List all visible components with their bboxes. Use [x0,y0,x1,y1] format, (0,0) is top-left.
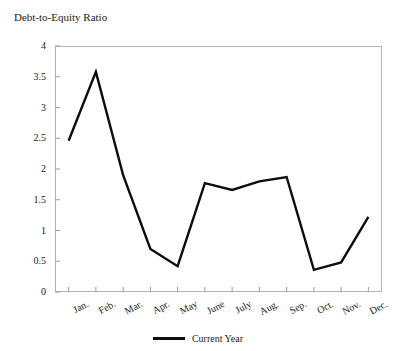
legend-label: Current Year [192,333,243,345]
y-axis-tick-label: 0.5 [0,256,46,266]
x-axis-ticks [69,287,369,292]
y-axis-tick-label: 1 [0,226,46,236]
data-series-group [69,72,369,270]
chart-svg-layer [0,0,396,351]
y-axis-tick-label: 3.5 [0,72,46,82]
y-axis-tick-label: 3 [0,103,46,113]
legend-line-swatch [153,337,185,340]
chart-legend: Current Year [0,331,396,345]
y-axis-tick-label: 2.5 [0,133,46,143]
chart-container: Debt-to-Equity Ratio 00.511.522.533.54 J… [0,0,396,351]
y-axis-tick-label: 4 [0,41,46,51]
data-series-line [69,72,369,270]
y-axis-tick-label: 2 [0,164,46,174]
y-axis-ticks [55,46,60,292]
legend-entry: Current Year [153,333,243,345]
y-axis-tick-label: 1.5 [0,195,46,205]
y-axis-tick-label: 0 [0,287,46,297]
